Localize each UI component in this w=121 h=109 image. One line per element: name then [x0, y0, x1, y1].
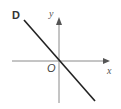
y-axis-label: y	[48, 8, 54, 19]
x-axis-arrow-icon	[103, 58, 110, 64]
panel-label: D	[12, 9, 20, 21]
origin-label: O	[47, 62, 56, 74]
y-axis-arrow-icon	[56, 17, 62, 25]
coordinate-graph: D y x O	[0, 0, 121, 109]
x-axis-label: x	[106, 65, 112, 76]
